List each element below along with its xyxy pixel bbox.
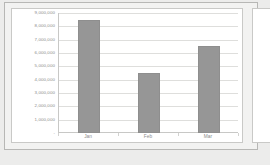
bars-layer <box>59 13 238 133</box>
chart-card[interactable]: -1,000,0002,000,0003,000,0004,000,0005,0… <box>11 8 243 143</box>
screenshot-root: -1,000,0002,000,0003,000,0004,000,0005,0… <box>0 0 270 165</box>
y-axis-tick-label: 5,000,000 <box>35 64 55 68</box>
plot-area <box>58 13 238 133</box>
y-axis-tick-label: 8,000,000 <box>35 24 55 28</box>
x-axis-tick <box>238 133 239 136</box>
y-axis-tick-labels: -1,000,0002,000,0003,000,0004,000,0005,0… <box>12 13 57 133</box>
x-axis-tick-labels: JanFebMar <box>58 135 238 147</box>
y-axis-tick-label: 6,000,000 <box>35 51 55 55</box>
y-axis-tick-label: 9,000,000 <box>35 11 55 15</box>
y-axis-tick-label: 1,000,000 <box>35 117 55 121</box>
y-axis-tick-label: 4,000,000 <box>35 77 55 81</box>
bar-feb[interactable] <box>138 73 160 133</box>
y-axis-tick-label: - <box>53 131 55 135</box>
y-axis-tick-label: 2,000,000 <box>35 104 55 108</box>
y-axis-tick-label: 7,000,000 <box>35 37 55 41</box>
x-axis-tick-label: Feb <box>144 135 152 140</box>
chart-plot-wrapper: -1,000,0002,000,0003,000,0004,000,0005,0… <box>12 9 242 142</box>
y-axis-tick-label: 3,000,000 <box>35 91 55 95</box>
x-axis-tick-label: Jan <box>84 135 92 140</box>
bar-jan[interactable] <box>78 20 100 133</box>
x-axis-tick-label: Mar <box>204 135 212 140</box>
adjacent-panel <box>252 8 270 143</box>
bar-mar[interactable] <box>198 46 220 133</box>
